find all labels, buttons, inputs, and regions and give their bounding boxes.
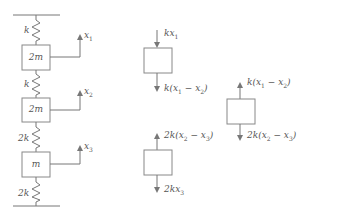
- fbd2-bottom-force-label: 2k(x2 − x3): [247, 130, 296, 144]
- spring-3: [32, 122, 40, 152]
- mass-3-label: m: [22, 159, 50, 169]
- fbd3-top-force-label: 2k(x2 − x3): [164, 130, 213, 144]
- mass-2-label: 2m: [22, 104, 50, 114]
- fbd1-top-force-label: kx1: [164, 28, 178, 42]
- fbd1-bottom-force-label: k(x1 − x2): [164, 83, 208, 97]
- spring-4: [32, 177, 40, 206]
- spring-2-label: k: [24, 79, 29, 89]
- spring-1-label: k: [24, 25, 29, 35]
- fbd3-bottom-force-label: 2kx3: [164, 184, 184, 198]
- x3-arrow: [50, 148, 80, 164]
- x1-label: x1: [84, 30, 93, 44]
- spring-4-label: 2k: [18, 188, 29, 198]
- x2-label: x2: [84, 86, 93, 100]
- x2-arrow: [50, 93, 80, 110]
- spring-2: [32, 70, 40, 98]
- x3-label: x3: [84, 141, 93, 155]
- fbd2-box: [227, 99, 255, 124]
- mass-1-label: 2m: [22, 52, 50, 62]
- spring-3-label: 2k: [18, 133, 29, 143]
- spring-1: [32, 15, 40, 45]
- fbd1-box: [144, 48, 172, 73]
- fbd2-top-force-label: k(x1 − x2): [247, 77, 291, 91]
- fbd3-box: [144, 150, 172, 175]
- x1-arrow: [50, 37, 80, 57]
